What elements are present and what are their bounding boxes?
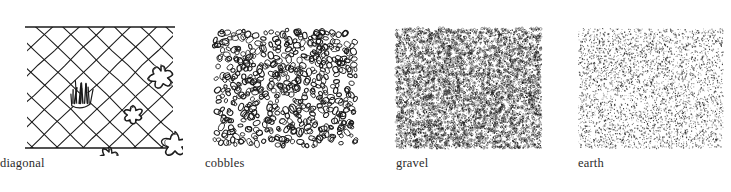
gravel-texture-svg <box>369 0 552 156</box>
swatch-image-diagonal <box>0 0 183 156</box>
swatch-panel-gravel[interactable]: gravel <box>369 0 552 192</box>
swatch-image-gravel <box>369 0 552 156</box>
swatch-label-earth: earth <box>578 156 604 171</box>
earth-elements <box>578 28 724 149</box>
swatch-panel-cobbles[interactable]: cobbles <box>186 0 369 192</box>
gravel-elements <box>394 27 542 150</box>
swatch-label-cobbles: cobbles <box>205 156 245 171</box>
cobbles-texture-svg <box>186 0 369 156</box>
earth-texture-svg <box>551 0 731 156</box>
swatch-panel-earth[interactable]: earth <box>551 0 731 192</box>
swatch-label-diagonal: diagonal <box>0 156 45 171</box>
swatch-panel-diagonal[interactable]: diagonal <box>0 0 183 192</box>
texture-swatch-figure: diagonal cobbles gravel earth <box>0 0 731 192</box>
cobbles-elements <box>212 28 359 149</box>
diagonal-texture-svg <box>0 0 183 156</box>
swatch-image-earth <box>551 0 731 156</box>
swatch-label-gravel: gravel <box>396 156 428 171</box>
swatch-image-cobbles <box>186 0 369 156</box>
